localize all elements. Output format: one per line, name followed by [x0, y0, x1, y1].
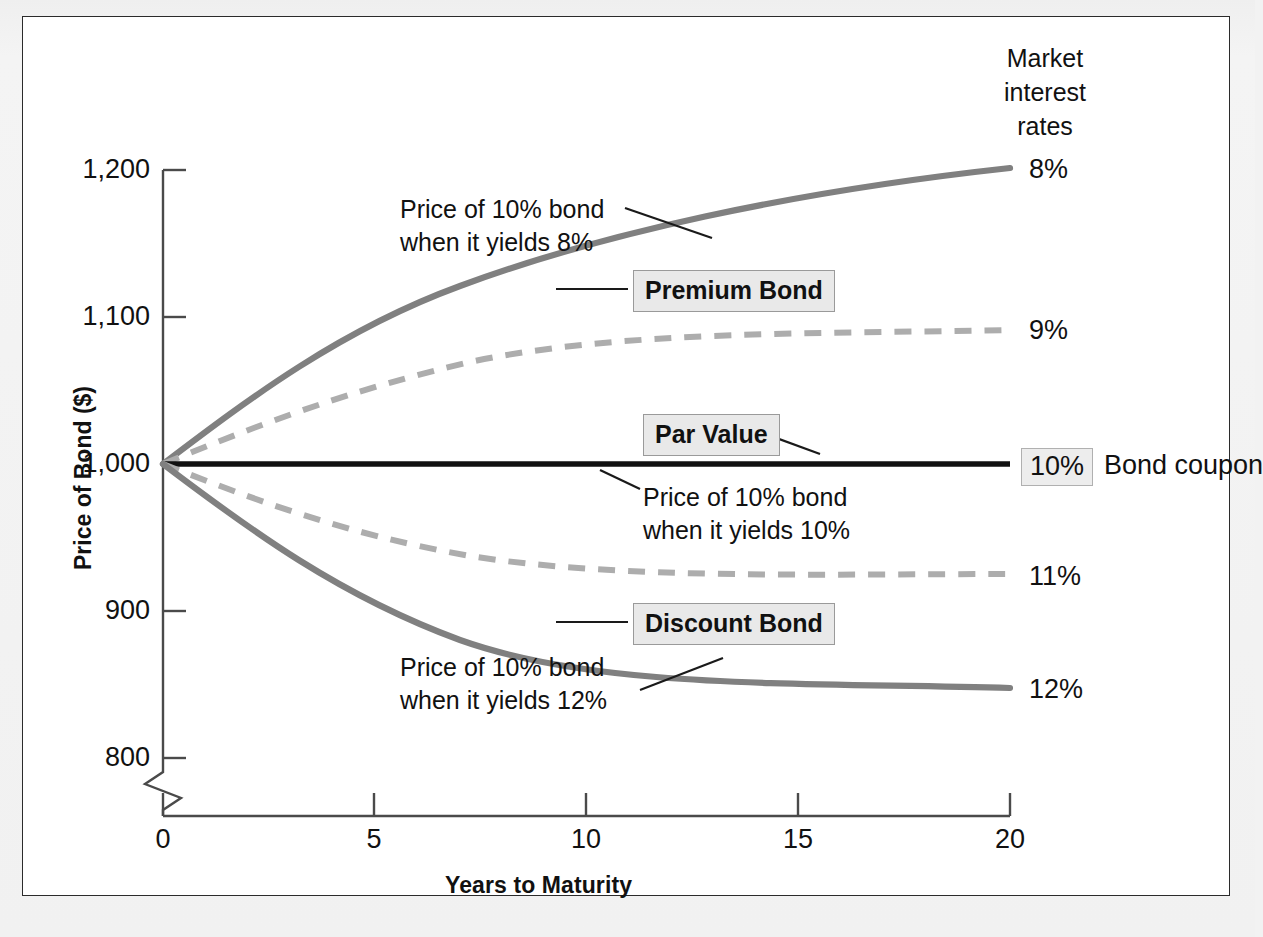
x-tick-label-10: 10 — [556, 824, 616, 856]
bond-coupon-label: Bond coupon — [1104, 450, 1263, 482]
legend-heading-line1: Market — [960, 42, 1130, 76]
x-tick-label-15: 15 — [768, 824, 828, 856]
annotation-12-percent-line1: Price of 10% bond — [400, 651, 604, 684]
rate-label-8-percent: 8% — [1029, 154, 1068, 186]
annotation-10-percent-line1: Price of 10% bond — [643, 481, 847, 514]
rate-label-9-percent: 9% — [1029, 315, 1068, 347]
rate-label-12-percent: 12% — [1029, 674, 1083, 706]
leader-annot-10 — [600, 470, 640, 489]
x-tick-label-20: 20 — [980, 824, 1040, 856]
x-axis-title: Years to Maturity — [445, 872, 632, 899]
annotation-8-percent-line2: when it yields 8% — [400, 226, 593, 259]
legend-heading-line2: interest — [960, 76, 1130, 110]
y-tick-label-1200: 1,200 — [30, 154, 150, 186]
y-tick-label-800: 800 — [30, 742, 150, 774]
rate-label-11-percent: 11% — [1029, 561, 1081, 593]
x-tick-label-0: 0 — [133, 824, 193, 856]
y-tick-label-900: 900 — [30, 595, 150, 627]
annotation-8-percent-line1: Price of 10% bond — [400, 193, 604, 226]
discount-bond-box: Discount Bond — [633, 603, 835, 645]
par-value-box: Par Value — [643, 414, 780, 456]
premium-bond-box: Premium Bond — [633, 270, 835, 312]
annotation-10-percent-line2: when it yields 10% — [643, 514, 850, 547]
rate-label-10-percent: 10% — [1021, 448, 1093, 486]
x-tick-label-5: 5 — [344, 824, 404, 856]
y-axis-title: Price of Bond ($) — [70, 386, 97, 570]
legend-heading-line3: rates — [960, 110, 1130, 144]
y-tick-label-1100: 1,100 — [30, 301, 150, 333]
annotation-12-percent-line2: when it yields 12% — [400, 684, 607, 717]
curve-9-percent — [163, 330, 1010, 464]
